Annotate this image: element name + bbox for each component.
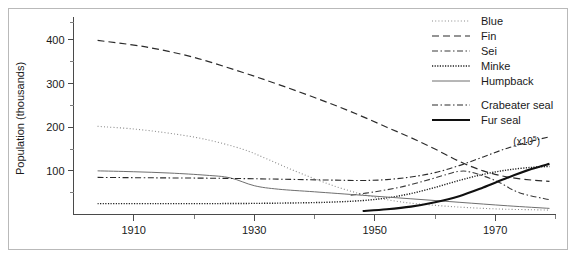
series-line-sei	[351, 171, 550, 200]
legend-label-sei: Sei	[481, 45, 497, 57]
series-line-crabeater-seal	[98, 137, 550, 181]
series-line-blue	[98, 126, 550, 210]
legend-label-minke: Minke	[481, 60, 510, 72]
legend-label-fur-seal: Fur seal	[481, 114, 521, 126]
x-tick-label: 1950	[363, 224, 387, 236]
x-tick-label: 1970	[483, 224, 507, 236]
x-tick-label: 1930	[242, 224, 266, 236]
annotation-layer: (x105)	[513, 135, 540, 147]
x-tick-label: 1910	[122, 224, 146, 236]
y-tick-label: 400	[46, 34, 64, 46]
y-tick-label: 300	[46, 78, 64, 90]
legend-layer: BlueFinSeiMinkeHumpbackCrabeater sealFur…	[432, 15, 553, 126]
y-tick-label: 200	[46, 121, 64, 133]
y-axis-title: Population (thousands)	[14, 62, 26, 175]
chart-canvas: 1002003004001910193019501970Population (…	[0, 0, 578, 266]
series-line-humpback	[98, 171, 550, 209]
figure-container: 1002003004001910193019501970Population (…	[0, 0, 578, 266]
legend-label-humpback: Humpback	[481, 75, 534, 87]
axes-layer: 1002003004001910193019501970Population (…	[14, 17, 556, 236]
series-line-minke	[98, 167, 550, 204]
series-line-fur-seal	[363, 164, 550, 211]
legend-label-blue: Blue	[481, 15, 503, 27]
crabeater-scale-annotation: (x105)	[513, 135, 540, 147]
legend-label-fin: Fin	[481, 30, 496, 42]
legend-label-crabeater-seal: Crabeater seal	[481, 99, 553, 111]
y-tick-label: 100	[46, 165, 64, 177]
